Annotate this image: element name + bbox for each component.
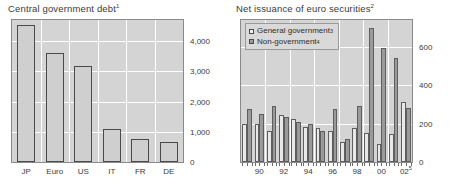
bar-non-government [259,114,264,162]
y-axis-tick-label: 2,000 [190,97,210,106]
x-axis-tickmark [377,163,378,166]
bar-non-government [381,48,386,162]
bar-non-government [247,109,252,162]
x-axis-tickmark [406,163,407,166]
x-axis-tickmark [259,163,260,166]
y-axis-tick-label: 4,000 [190,37,210,46]
x-axis-tickmark [276,163,277,166]
x-axis-tick-label: Euro [46,167,63,176]
x-axis-tickmark [369,163,370,166]
x-axis-tickmark [381,163,382,166]
x-axis-tickmark [328,163,329,166]
bar-non-government [308,124,313,162]
x-axis-tickmark [364,163,365,166]
bar [17,25,35,162]
plot-area-left [11,19,184,163]
x-axis-tickmark [352,163,353,166]
x-axis-tickmark [242,163,243,166]
x-axis-tickmark [386,163,387,166]
y-axis-tick-label: 200 [419,119,432,128]
panel-central-government-debt: Central government debt1 01,0002,0003,00… [0,0,228,192]
bars-left [12,20,183,162]
chart-title-right: Net issuance of euro securities2 [236,3,374,14]
bar-non-government [394,58,399,162]
x-axis-tickmark [389,163,390,166]
x-axis-tick-label: DE [163,167,174,176]
x-axis-tickmark [394,163,395,166]
x-axis-tickmark [291,163,292,166]
x-axis-tickmark [313,163,314,166]
bar [103,129,121,162]
x-axis-tickmark [272,163,273,166]
bar-non-government [296,122,301,162]
bar [131,139,149,162]
y-axis-tick-label: 1,000 [190,127,210,136]
x-axis-tickmark [264,163,265,166]
x-axis-tick-label: FR [135,167,146,176]
bar-non-government [272,106,277,162]
bar-non-government [357,106,362,162]
x-axis-tick-label: JP [22,167,31,176]
y-axis-tick-label: 600 [419,42,432,51]
bar [74,66,92,162]
chart-title-left-superscript: 1 [116,3,120,9]
x-axis-tickmark [401,163,402,166]
chart-sheet: Central government debt1 01,0002,0003,00… [0,0,455,192]
x-axis-tickmark [267,163,268,166]
x-axis-tickmark [350,163,351,166]
y-axis-tick-label: 3,000 [190,67,210,76]
x-axis-tickmark [308,163,309,166]
x-axis-tickmark [411,163,412,166]
legend-label-non-government: Non-government [257,37,317,48]
x-axis-tickmark [345,163,346,166]
x-axis-tickmark [284,163,285,166]
x-axis-tick-label: 94 [304,167,313,176]
x-axis-tickmark [303,163,304,166]
chart-title-right-text: Net issuance of euro securities [236,3,371,14]
x-axis-tickmark [296,163,297,166]
x-axis-tickmark [337,163,338,166]
x-axis-tickmark [398,163,399,166]
x-axis-tickmark [374,163,375,166]
x-axis-tickmark [289,163,290,166]
y-axis-tick-label: 0 [190,158,194,167]
x-axis-tick-label: 025 [400,167,412,176]
y-axis-tick-label: 400 [419,81,432,90]
bar-non-government [333,109,338,162]
legend-right: General government3 Non-government4 [245,23,339,50]
x-axis-tick-label: 00 [377,167,386,176]
x-axis-tickmark [362,163,363,166]
x-axis-tickmark [320,163,321,166]
x-axis-tick-label: 90 [255,167,264,176]
y-axis-tick-label: 0 [419,158,423,167]
x-axis-tick-label: 98 [353,167,362,176]
x-axis-tick-label: 96 [328,167,337,176]
x-axis-tickmark [316,163,317,166]
x-axis-tickmark [357,163,358,166]
x-axis-tickmark [279,163,280,166]
bar-non-government [320,131,325,162]
bar-non-government [284,117,289,162]
legend-item-general-government: General government3 [249,26,333,37]
x-axis-tickmark [255,163,256,166]
x-axis-tickmark [340,163,341,166]
x-axis-tickmark [247,163,248,166]
x-axis-tickmark [252,163,253,166]
bar-non-government [406,108,411,162]
legend-swatch-general-government-icon [249,29,254,34]
x-axis-tick-label: IT [108,167,115,176]
x-axis-tick-superscript: 5 [409,165,412,171]
chart-title-right-superscript: 2 [371,3,375,9]
bar-non-government [345,139,350,162]
chart-title-left: Central government debt1 [8,3,120,14]
legend-label-general-government: General government [257,26,330,37]
chart-title-left-text: Central government debt [8,3,116,14]
x-axis-tickmark [333,163,334,166]
bar [160,142,178,162]
bar-non-government [369,28,374,162]
bar [46,53,64,162]
x-axis-tick-label: 92 [279,167,288,176]
x-axis-tickmark [301,163,302,166]
x-axis-tick-label: US [78,167,89,176]
legend-swatch-non-government-icon [249,39,254,44]
